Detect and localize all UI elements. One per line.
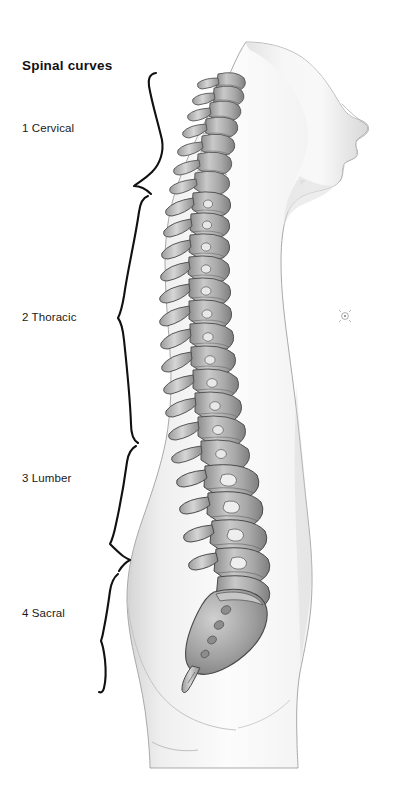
lumber-brace (110, 446, 136, 571)
cervical-brace (134, 73, 163, 194)
nipple-icon (339, 310, 351, 322)
sacral-brace (99, 574, 118, 692)
figure-canvas: Spinal curves 1 Cervical 2 Thoracic 3 Lu… (0, 0, 397, 803)
thoracic-brace (118, 196, 148, 443)
body-silhouette (120, 42, 369, 768)
anatomical-illustration (0, 0, 397, 803)
